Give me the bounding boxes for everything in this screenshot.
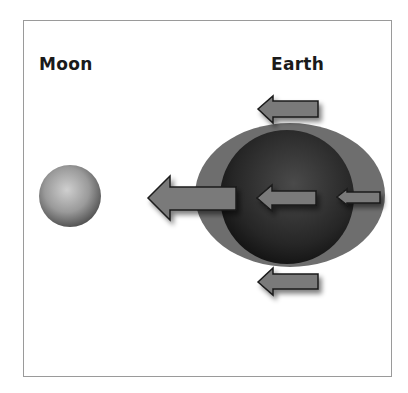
bottom-arrow-icon: [258, 268, 318, 295]
moon-label: Moon: [39, 54, 93, 74]
moon-sphere: [39, 165, 101, 227]
top-arrow-icon: [258, 96, 318, 123]
earth-label: Earth: [271, 54, 324, 74]
far-side-arrow-icon: [337, 189, 380, 205]
